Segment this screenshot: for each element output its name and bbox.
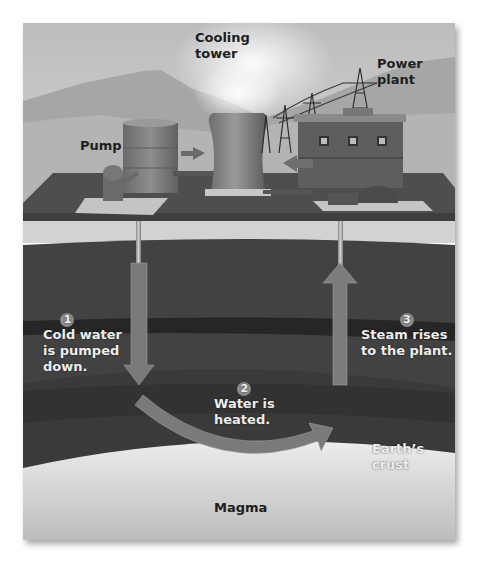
- step-1: 1 Cold water is pumped down.: [43, 311, 122, 375]
- step-number-badge: 1: [60, 313, 74, 327]
- storage-tank: [123, 123, 178, 193]
- cooling-tower: [209, 113, 267, 191]
- label-magma: Magma: [214, 500, 267, 516]
- step-3: 3 Steam rises to the plant.: [361, 311, 452, 359]
- step-number-badge: 2: [237, 382, 251, 396]
- step-2: 2 Water is heated.: [214, 380, 275, 428]
- label-earths-crust: Earth’s crust: [372, 441, 455, 473]
- label-cooling-tower: Cooling tower: [195, 30, 250, 62]
- label-power-plant: Power plant: [377, 56, 423, 88]
- geothermal-diagram: Cooling tower Power plant Pump 1 Cold wa…: [23, 23, 455, 540]
- power-plant-building: [298, 118, 403, 188]
- label-pump: Pump: [80, 138, 122, 154]
- step-number-badge: 3: [400, 313, 414, 327]
- ground-edge: [23, 213, 455, 221]
